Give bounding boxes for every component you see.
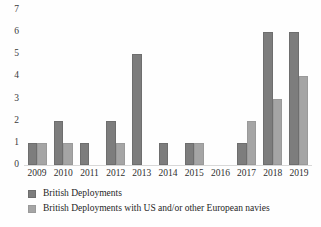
legend-swatch-icon — [28, 205, 36, 213]
bar-group-2010 — [50, 10, 76, 165]
bar-group-2015 — [181, 10, 207, 165]
y-axis-tick-label: 4 — [14, 72, 19, 82]
bar-2019-series-1 — [289, 32, 299, 165]
x-axis-baseline — [24, 165, 312, 166]
bar-2014-series-1 — [159, 143, 169, 165]
y-axis-tick-label: 5 — [14, 50, 19, 60]
x-axis-tick-label: 2018 — [260, 167, 286, 181]
bar-2009-series-1 — [28, 143, 38, 165]
bar-group-2012 — [103, 10, 129, 165]
bar-2010-series-1 — [54, 121, 64, 165]
bar-2017-series-2 — [247, 121, 257, 165]
bar-2018-series-2 — [273, 99, 283, 165]
y-axis-tick-label: 7 — [14, 5, 19, 15]
legend-item-label: British Deployments with US and/or other… — [43, 204, 270, 214]
bar-group-2013 — [129, 10, 155, 165]
y-axis-tick-label: 3 — [14, 94, 19, 104]
x-axis-tick-label: 2009 — [24, 167, 50, 181]
bars-layer — [24, 10, 312, 165]
bar-2015-series-2 — [194, 143, 204, 165]
bar-2012-series-2 — [116, 143, 126, 165]
x-axis-tick-label: 2017 — [234, 167, 260, 181]
plot-area — [24, 10, 312, 165]
bar-2018-series-1 — [263, 32, 273, 165]
x-axis-tick-label: 2019 — [286, 167, 312, 181]
bar-group-2018 — [260, 10, 286, 165]
bar-2010-series-2 — [63, 143, 73, 165]
bar-group-2009 — [24, 10, 50, 165]
y-axis: 76543210 — [0, 10, 22, 165]
chart-legend: British Deployments British Deployments … — [28, 186, 313, 216]
bar-group-2017 — [234, 10, 260, 165]
bar-group-2019 — [286, 10, 312, 165]
x-axis-tick-label: 2011 — [76, 167, 102, 181]
x-axis-tick-label: 2012 — [103, 167, 129, 181]
x-axis-tick-label: 2015 — [181, 167, 207, 181]
x-axis-tick-label: 2016 — [207, 167, 233, 181]
y-axis-tick-label: 0 — [14, 160, 19, 170]
bar-group-2016 — [207, 10, 233, 165]
bar-2011-series-1 — [80, 143, 90, 165]
x-axis-tick-label: 2014 — [155, 167, 181, 181]
bar-group-2011 — [76, 10, 102, 165]
bar-group-2014 — [155, 10, 181, 165]
bar-2012-series-1 — [106, 121, 116, 165]
bar-2017-series-1 — [237, 143, 247, 165]
legend-item-label: British Deployments — [43, 189, 122, 199]
bar-2013-series-1 — [132, 54, 142, 165]
y-axis-tick-label: 1 — [14, 138, 19, 148]
bar-2009-series-2 — [37, 143, 47, 165]
legend-item-british-deployments: British Deployments — [28, 186, 313, 201]
y-axis-tick-label: 2 — [14, 116, 19, 126]
x-axis: 2009201020112012201320142015201620172018… — [24, 167, 312, 181]
x-axis-tick-label: 2010 — [50, 167, 76, 181]
bar-chart: 76543210 2009201020112012201320142015201… — [0, 0, 321, 227]
legend-item-british-deployments-with-allies: British Deployments with US and/or other… — [28, 201, 313, 216]
bar-2019-series-2 — [299, 76, 309, 165]
bar-2015-series-1 — [185, 143, 195, 165]
y-axis-tick-label: 6 — [14, 27, 19, 37]
x-axis-tick-label: 2013 — [129, 167, 155, 181]
legend-swatch-icon — [28, 190, 36, 198]
